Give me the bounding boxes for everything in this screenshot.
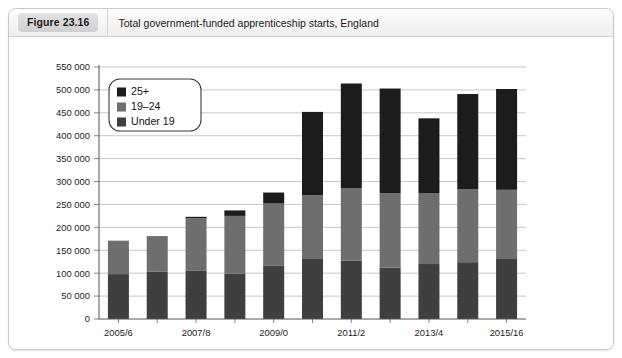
- legend-label: Under 19: [131, 115, 175, 127]
- stacked-bar-chart: 050 000100 000150 000200 000250 000300 0…: [9, 37, 614, 350]
- bar-segment: [263, 193, 284, 204]
- x-tick-label: 2011/2: [337, 327, 365, 338]
- figure-caption-bar: Figure 23.16 Total government-funded app…: [9, 9, 614, 37]
- bar-segment: [418, 193, 439, 264]
- bar-segment: [224, 210, 245, 215]
- bar-segment: [302, 112, 323, 195]
- x-tick-label: 2009/0: [259, 327, 288, 338]
- y-tick-label: 300 000: [56, 176, 90, 187]
- bar-segment: [186, 218, 207, 271]
- figure-number-badge: Figure 23.16: [18, 13, 98, 32]
- bar-segment: [108, 241, 129, 274]
- legend-swatch: [117, 103, 126, 112]
- legend-swatch: [117, 118, 126, 127]
- bar-segment: [147, 236, 168, 272]
- legend-label: 25+: [131, 85, 149, 97]
- caption-divider: [107, 9, 108, 36]
- x-tick-label: 2013/4: [415, 327, 444, 338]
- bar-segment: [496, 259, 517, 319]
- bar-segment: [457, 189, 478, 262]
- bar-segment: [457, 262, 478, 319]
- bar-segment: [341, 188, 362, 260]
- x-axis-labels: 2005/62007/82009/02011/22013/42015/16: [104, 327, 523, 338]
- bar-segment: [496, 190, 517, 259]
- bar-segment: [341, 261, 362, 319]
- x-tick-label: 2007/8: [182, 327, 211, 338]
- y-tick-label: 550 000: [56, 61, 90, 72]
- legend-label: 19–24: [131, 100, 161, 112]
- chart-plot-area: 050 000100 000150 000200 000250 000300 0…: [9, 37, 614, 350]
- y-tick-label: 50 000: [61, 290, 90, 301]
- bar-segment: [380, 89, 401, 193]
- y-tick-label: 150 000: [56, 245, 90, 256]
- bar-segment: [418, 264, 439, 319]
- bar-segment: [224, 216, 245, 274]
- bar-segment: [302, 195, 323, 259]
- y-tick-label: 500 000: [56, 84, 90, 95]
- y-tick-label: 100 000: [56, 268, 90, 279]
- bar-segment: [147, 272, 168, 319]
- bar-segment: [108, 274, 129, 319]
- bar-segment: [418, 118, 439, 193]
- bar-segment: [341, 83, 362, 188]
- bar-segment: [224, 274, 245, 319]
- bar-segment: [263, 265, 284, 319]
- bar-segment: [496, 89, 517, 190]
- chart-legend: 25+19–24Under 19: [109, 79, 201, 131]
- figure-title: Total government-funded apprenticeship s…: [118, 17, 378, 29]
- y-axis-labels: 050 000100 000150 000200 000250 000300 0…: [56, 61, 90, 324]
- y-tick-label: 350 000: [56, 153, 90, 164]
- figure-card: Figure 23.16 Total government-funded app…: [8, 8, 614, 350]
- y-tick-label: 250 000: [56, 199, 90, 210]
- bar-segment: [380, 268, 401, 319]
- bar-segment: [263, 204, 284, 266]
- bar-segment: [186, 217, 207, 218]
- y-tick-label: 200 000: [56, 222, 90, 233]
- bar-segment: [457, 94, 478, 189]
- bar-segment: [302, 259, 323, 319]
- x-tick-label: 2015/16: [490, 327, 524, 338]
- y-tick-label: 400 000: [56, 130, 90, 141]
- legend-swatch: [117, 88, 126, 97]
- y-tick-label: 0: [85, 313, 90, 324]
- bar-segment: [186, 271, 207, 319]
- bar-segment: [380, 193, 401, 268]
- x-tick-label: 2005/6: [104, 327, 133, 338]
- y-tick-label: 450 000: [56, 107, 90, 118]
